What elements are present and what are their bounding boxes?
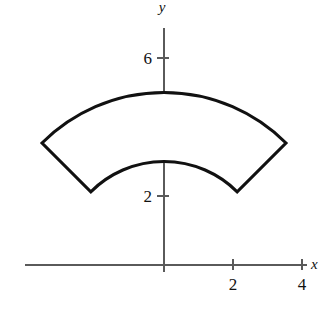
y-tick-label-6: 6 [144,49,153,68]
annulus-sector-figure: 6 2 2 4 x y [0,0,330,318]
y-tick-label-2: 2 [144,187,153,206]
x-tick-label-4: 4 [298,275,307,294]
y-axis-label: y [157,0,166,15]
x-tick-label-2: 2 [229,275,238,294]
x-axis-label: x [310,256,318,272]
figure-container: 6 2 2 4 x y [0,0,330,318]
